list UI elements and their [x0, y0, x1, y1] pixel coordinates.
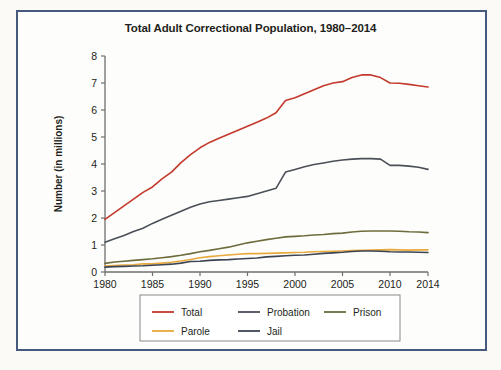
series-line-probation [105, 159, 428, 243]
y-axis-tick-labels: 012345678 [91, 50, 97, 278]
y-tick-label: 4 [91, 158, 97, 170]
legend-label-probation: Probation [267, 307, 310, 318]
x-tick-label: 1990 [188, 278, 212, 290]
legend-label-prison: Prison [353, 307, 381, 318]
x-tick-label: 2005 [331, 278, 355, 290]
y-tick-label: 3 [91, 185, 97, 197]
y-tick-label: 7 [91, 77, 97, 89]
data-series-group [105, 75, 428, 267]
x-tick-label: 2010 [378, 278, 402, 290]
y-tick-label: 2 [91, 212, 97, 224]
x-axis-tick-labels: 19801985199019952000200520102014 [93, 278, 440, 290]
x-tick-label: 1995 [236, 278, 260, 290]
source-note [18, 360, 478, 370]
y-tick-label: 6 [91, 104, 97, 116]
series-line-parole [105, 250, 428, 266]
x-tick-label: 2000 [283, 278, 307, 290]
legend-label-total: Total [181, 307, 202, 318]
line-chart-plot: 012345678 198019851990199520002005201020… [16, 10, 487, 351]
legend-label-jail: Jail [267, 326, 282, 337]
y-axis-title: Number (in millions) [53, 116, 64, 213]
x-tick-label: 2014 [416, 278, 440, 290]
y-tick-label: 0 [91, 266, 97, 278]
x-tick-label: 1980 [93, 278, 117, 290]
y-tick-label: 1 [91, 239, 97, 251]
series-line-total [105, 75, 428, 219]
series-line-prison [105, 231, 428, 263]
figure-container: Total Adult Correctional Population, 198… [0, 0, 501, 370]
x-tick-label: 1985 [141, 278, 165, 290]
y-tick-label: 8 [91, 50, 97, 62]
y-tick-label: 5 [91, 131, 97, 143]
legend-label-parole: Parole [181, 326, 210, 337]
